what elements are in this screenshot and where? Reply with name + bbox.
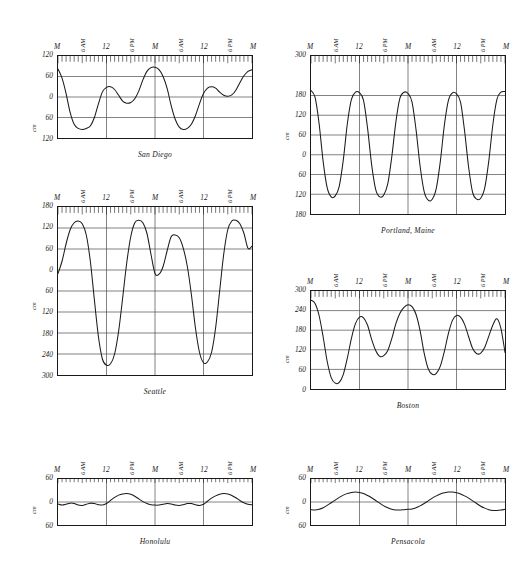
x-tick-label: 12 <box>199 466 209 473</box>
x-tick-label: 6 AM <box>431 274 437 287</box>
y-tick-label: 180 <box>284 326 306 333</box>
panel-honolulu: cm Honolulu 60060M6 AM126 PMM6 AM126 PMM <box>0 452 264 567</box>
x-tick-label: 12 <box>452 466 462 473</box>
x-tick-label: M <box>150 466 160 473</box>
x-tick-label: M <box>403 43 413 50</box>
tide-curve-plot <box>58 207 252 375</box>
plot-frame-boston <box>310 290 506 390</box>
x-tick-label: 6 PM <box>227 189 233 203</box>
x-tick-label: 6 PM <box>382 38 388 52</box>
y-tick-label: 60 <box>31 474 53 481</box>
panel-seattle: cm Seattle 18012060060120180240300M6 AM1… <box>0 182 264 427</box>
x-tick-label: 12 <box>101 43 111 50</box>
x-tick-label: M <box>501 43 511 50</box>
plot-frame-portland-maine <box>310 55 506 215</box>
x-tick-label: 6 AM <box>333 39 339 52</box>
y-tick-label: 120 <box>284 111 306 118</box>
x-tick-label: 6 AM <box>431 462 437 475</box>
panel-caption-honolulu: Honolulu <box>57 537 253 546</box>
x-tick-label: 6 AM <box>80 462 86 475</box>
x-tick-label: 6 AM <box>178 190 184 203</box>
x-tick-label: 6 PM <box>227 38 233 52</box>
x-tick-label: 6 PM <box>480 38 486 52</box>
y-tick-label: 120 <box>284 191 306 198</box>
x-tick-label: 6 AM <box>333 462 339 475</box>
y-tick-label: 0 <box>284 386 306 393</box>
x-tick-label: 6 PM <box>227 461 233 475</box>
panel-caption-seattle: Seattle <box>57 387 253 396</box>
tide-curve-plot <box>311 479 505 525</box>
panel-caption-pensacola: Pensacola <box>310 537 506 546</box>
panel-boston: cm Boston 300240180120600M6 AM126 PMM6 A… <box>265 268 529 438</box>
y-tick-label: 240 <box>31 351 53 358</box>
y-tick-label: 60 <box>31 287 53 294</box>
y-tick-label: 60 <box>31 522 53 529</box>
x-tick-label: 12 <box>354 43 364 50</box>
x-tick-label: M <box>501 278 511 285</box>
x-tick-label: 6 PM <box>382 461 388 475</box>
x-tick-label: M <box>403 466 413 473</box>
panel-pensacola: cm Pensacola 60060M6 AM126 PMM6 AM126 PM… <box>265 452 529 567</box>
y-tick-label: 240 <box>284 306 306 313</box>
tide-curve-plot <box>58 479 252 525</box>
y-axis-title-4: cm <box>30 506 37 514</box>
y-tick-label: 180 <box>284 91 306 98</box>
x-tick-label: M <box>305 466 315 473</box>
y-tick-label: 0 <box>284 151 306 158</box>
tide-figure: cm San Diego 12060060120M6 AM126 PMM6 AM… <box>0 0 529 573</box>
x-tick-label: 12 <box>101 466 111 473</box>
x-tick-label: M <box>52 466 62 473</box>
plot-frame-seattle <box>57 206 253 376</box>
x-tick-label: M <box>248 43 258 50</box>
x-tick-label: 6 AM <box>333 274 339 287</box>
y-tick-label: 60 <box>31 114 53 121</box>
y-tick-label: 0 <box>31 498 53 505</box>
y-tick-label: 60 <box>284 522 306 529</box>
x-tick-label: M <box>52 194 62 201</box>
y-tick-label: 180 <box>284 211 306 218</box>
x-tick-label: 12 <box>101 194 111 201</box>
y-tick-label: 120 <box>31 135 53 142</box>
x-tick-label: 12 <box>354 466 364 473</box>
y-tick-label: 60 <box>31 245 53 252</box>
panel-caption-portland-maine: Portland, Maine <box>310 226 506 235</box>
x-tick-label: M <box>305 43 315 50</box>
plot-frame-pensacola <box>310 478 506 526</box>
x-tick-label: 6 AM <box>80 39 86 52</box>
x-tick-label: M <box>52 43 62 50</box>
y-tick-label: 0 <box>284 498 306 505</box>
x-tick-label: M <box>501 466 511 473</box>
tide-curve-plot <box>311 291 505 389</box>
x-tick-label: 6 PM <box>129 189 135 203</box>
y-axis-title-5: cm <box>283 506 290 514</box>
panel-caption-san-diego: San Diego <box>57 150 253 159</box>
tide-curve-plot <box>58 56 252 138</box>
y-tick-label: 60 <box>284 131 306 138</box>
y-tick-label: 300 <box>284 51 306 58</box>
x-tick-label: M <box>305 278 315 285</box>
y-tick-label: 60 <box>284 171 306 178</box>
y-tick-label: 300 <box>284 286 306 293</box>
x-tick-label: M <box>403 278 413 285</box>
x-tick-label: M <box>150 194 160 201</box>
y-tick-label: 60 <box>284 366 306 373</box>
x-tick-label: 6 PM <box>382 273 388 287</box>
x-tick-label: 12 <box>452 278 462 285</box>
x-tick-label: 12 <box>199 43 209 50</box>
x-tick-label: 6 AM <box>178 39 184 52</box>
x-tick-label: 6 AM <box>80 190 86 203</box>
plot-frame-san-diego <box>57 55 253 139</box>
y-tick-label: 60 <box>31 72 53 79</box>
y-tick-label: 120 <box>284 346 306 353</box>
y-tick-label: 0 <box>31 266 53 273</box>
y-tick-label: 0 <box>31 93 53 100</box>
y-tick-label: 300 <box>31 372 53 379</box>
x-tick-label: 6 PM <box>480 461 486 475</box>
x-tick-label: 12 <box>354 278 364 285</box>
x-tick-label: 6 AM <box>178 462 184 475</box>
panel-caption-boston: Boston <box>310 401 506 410</box>
plot-frame-honolulu <box>57 478 253 526</box>
x-tick-label: M <box>248 194 258 201</box>
x-tick-label: 12 <box>452 43 462 50</box>
y-axis-title-0: cm <box>30 124 37 132</box>
